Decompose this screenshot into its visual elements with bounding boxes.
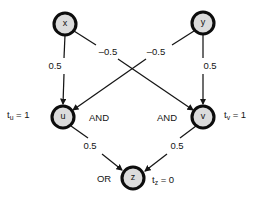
edge-x-v-segment-start — [74, 31, 96, 45]
node-u[interactable]: u — [52, 106, 74, 128]
edge-x-v-weight-label: –0.5 — [99, 46, 118, 57]
edge-u-z-segment-end — [102, 154, 122, 170]
edge-x-v-segment-end — [118, 59, 193, 110]
edge-y-u-weight-label: –0.5 — [147, 46, 166, 57]
gate-label-and-v: AND — [157, 112, 177, 123]
node-z[interactable]: z — [122, 167, 144, 189]
edge-v-z: 0.5 — [145, 126, 196, 171]
node-y[interactable]: y — [192, 12, 214, 34]
node-z-label: z — [131, 172, 136, 182]
gate-label-or-z: OR — [97, 173, 111, 184]
edge-v-z-segment-end — [145, 154, 167, 171]
edge-v-z-segment-start — [180, 126, 196, 138]
svg-text:tu = 1: tu = 1 — [7, 109, 30, 121]
node-v-label: v — [201, 111, 206, 121]
threshold-u-value: = 1 — [13, 109, 29, 120]
node-x-label: x — [63, 18, 68, 28]
threshold-z-value: = 0 — [158, 174, 174, 185]
threshold-label-v: tv = 1 — [224, 109, 246, 121]
edge-u-z: 0.5 — [71, 126, 122, 170]
gate-label-and-u: AND — [89, 112, 109, 123]
threshold-label-z: tz = 0 — [152, 174, 174, 186]
edge-y-u-segment-start — [172, 31, 194, 45]
edge-x-u-weight-label: 0.5 — [48, 60, 61, 71]
edge-u-z-weight-label: 0.5 — [83, 140, 96, 151]
svg-text:tz = 0: tz = 0 — [152, 174, 174, 186]
node-y-label: y — [201, 17, 206, 27]
edge-x-u-segment-top — [64, 35, 65, 58]
node-x[interactable]: x — [54, 13, 76, 35]
node-v[interactable]: v — [192, 106, 214, 128]
edge-y-v: 0.5 — [203, 34, 217, 104]
threshold-v-value: = 1 — [230, 109, 246, 120]
edge-v-z-weight-label: 0.5 — [170, 140, 183, 151]
edge-u-z-segment-start — [71, 126, 88, 138]
edge-y-u-segment-end — [73, 59, 146, 110]
node-u-label: u — [60, 111, 65, 121]
diagram-canvas: 0.5 0.5 –0.5 –0.5 0.5 — [0, 0, 266, 203]
edge-y-v-weight-label: 0.5 — [203, 60, 216, 71]
svg-text:tv = 1: tv = 1 — [224, 109, 246, 121]
threshold-label-u: tu = 1 — [7, 109, 30, 121]
edge-x-u: 0.5 — [48, 35, 65, 104]
edge-x-u-segment-bottom — [63, 74, 64, 104]
threshold-logic-network-diagram: 0.5 0.5 –0.5 –0.5 0.5 — [0, 0, 266, 203]
